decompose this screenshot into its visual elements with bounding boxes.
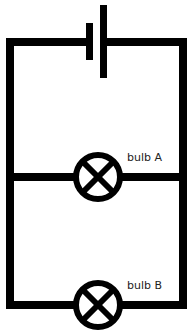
bulb-a-icon (76, 155, 120, 199)
battery-icon (86, 5, 107, 78)
bulb-b-label: bulb B (127, 279, 162, 292)
battery-short-plate (86, 23, 93, 60)
bulb-b-icon (76, 283, 120, 327)
bulb-a-label: bulb A (127, 151, 162, 164)
battery-long-plate (100, 5, 107, 78)
circuit-diagram: bulb A bulb B (0, 0, 192, 333)
